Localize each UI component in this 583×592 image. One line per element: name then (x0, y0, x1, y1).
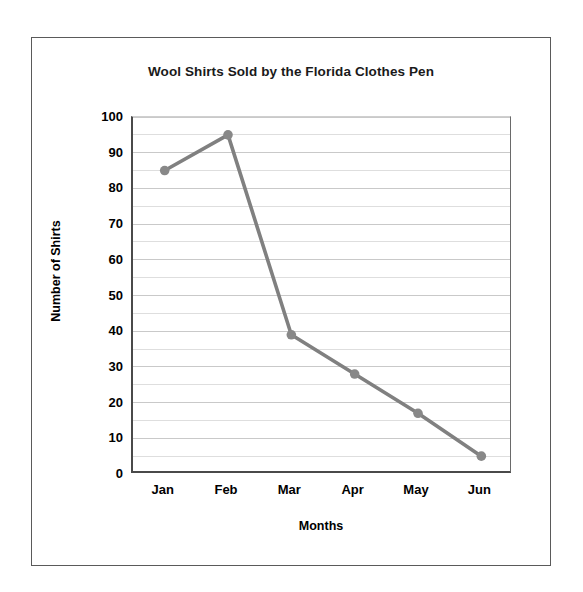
data-point-may (413, 409, 423, 419)
x-axis-title: Months (131, 519, 511, 533)
chart-title: Wool Shirts Sold by the Florida Clothes … (31, 64, 551, 79)
data-point-jan (160, 166, 170, 176)
y-axis-tick-labels: 0102030405060708090100 (75, 116, 123, 473)
chart-page: Wool Shirts Sold by the Florida Clothes … (0, 0, 583, 592)
x-axis-tick-label-may: May (381, 483, 451, 496)
y-axis-tick-label: 0 (75, 467, 123, 480)
data-point-apr (350, 369, 360, 379)
line-series-layer (133, 117, 513, 474)
y-axis-title: Number of Shirts (49, 201, 63, 341)
x-axis-tick-labels: JanFebMarAprMayJun (131, 483, 511, 503)
y-axis-tick-label: 40 (75, 324, 123, 337)
x-axis-tick-label-feb: Feb (191, 483, 261, 496)
y-axis-tick-label: 80 (75, 181, 123, 194)
y-axis-tick-label: 100 (75, 110, 123, 123)
y-axis-tick-label: 20 (75, 395, 123, 408)
y-axis-tick-label: 70 (75, 217, 123, 230)
series-markers (160, 130, 486, 461)
x-axis-tick-label-mar: Mar (254, 483, 324, 496)
y-axis-tick-label: 10 (75, 431, 123, 444)
data-point-mar (287, 330, 297, 340)
data-point-feb (223, 130, 233, 140)
x-axis-tick-label-jun: Jun (444, 483, 514, 496)
data-point-jun (477, 451, 487, 461)
y-axis-tick-label: 50 (75, 288, 123, 301)
plot-area (131, 116, 511, 473)
x-axis-tick-label-jan: Jan (128, 483, 198, 496)
x-axis-tick-label-apr: Apr (318, 483, 388, 496)
y-axis-tick-label: 90 (75, 145, 123, 158)
y-axis-tick-label: 60 (75, 252, 123, 265)
series-line-wool-shirts (165, 135, 482, 456)
y-axis-tick-label: 30 (75, 359, 123, 372)
